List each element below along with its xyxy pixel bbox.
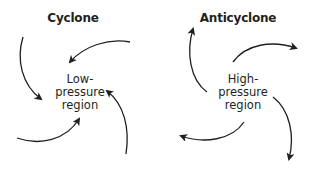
anticyclone-center-label: High- pressure region [218, 73, 268, 112]
anticyclone-title: Anticyclone [200, 11, 277, 25]
anticyclone-label-line-3: region [218, 99, 268, 112]
anticyclone-panel: Anticyclone High- pressure region [0, 0, 311, 170]
